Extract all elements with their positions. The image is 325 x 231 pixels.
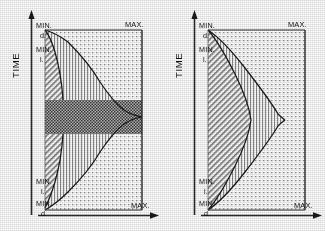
tick-bottom-1-main: MIN. bbox=[199, 177, 215, 186]
tick-top-1-sub: d. bbox=[203, 31, 209, 40]
tick-bottom-2-sub: d. bbox=[204, 209, 210, 218]
tick-bottom-2-main: MIN. bbox=[199, 199, 215, 208]
figure-container: TIME MIN. d. MIN. l. MIN. l. MIN. d. MAX… bbox=[0, 0, 325, 231]
panel-right: TIME MIN. d. MIN. l. MIN. l. MIN. d. MAX… bbox=[163, 0, 325, 231]
tick-top-2-sub: l. bbox=[203, 55, 207, 64]
tick-bottom-1-main: MIN. bbox=[36, 177, 52, 186]
x-axis-arrow-icon bbox=[150, 212, 159, 219]
x-max-label-top: MAX. bbox=[288, 20, 307, 29]
panel-left: TIME MIN. d. MIN. l. MIN. l. MIN. d. MAX… bbox=[0, 0, 162, 231]
dark-cross-hatch-band bbox=[45, 100, 142, 134]
x-axis-arrow-icon bbox=[313, 212, 322, 219]
right-plot-area bbox=[208, 30, 305, 210]
x-max-label-bottom: MAX. bbox=[294, 201, 313, 210]
y-axis-arrow-icon bbox=[191, 10, 197, 19]
x-max-label-top: MAX. bbox=[125, 20, 144, 29]
tick-top-2-main: MIN. bbox=[199, 45, 215, 54]
left-chart-svg: TIME MIN. d. MIN. l. MIN. l. MIN. d. MAX… bbox=[0, 0, 162, 231]
tick-bottom-2-main: MIN. bbox=[36, 199, 52, 208]
y-axis-title: TIME bbox=[173, 53, 184, 78]
tick-bottom-1-sub: l. bbox=[41, 187, 45, 196]
right-chart-svg: TIME MIN. d. MIN. l. MIN. l. MIN. d. MAX… bbox=[163, 0, 325, 231]
tick-top-1-sub: d. bbox=[40, 31, 46, 40]
tick-top-1-main: MIN. bbox=[36, 21, 52, 30]
tick-top-2-main: MIN. bbox=[36, 45, 52, 54]
tick-top-1-main: MIN. bbox=[199, 21, 215, 30]
y-axis-title: TIME bbox=[10, 53, 21, 78]
left-plot-area bbox=[45, 30, 142, 210]
y-axis-arrow-icon bbox=[28, 10, 34, 19]
tick-bottom-1-sub: l. bbox=[204, 187, 208, 196]
tick-bottom-2-sub: d. bbox=[41, 209, 47, 218]
tick-top-2-sub: l. bbox=[40, 55, 44, 64]
x-max-label-bottom: MAX. bbox=[131, 201, 150, 210]
